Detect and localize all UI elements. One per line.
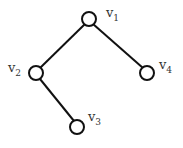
node-v2 [29,66,43,80]
label-v1: v1 [105,5,119,23]
edge-v1-v2 [40,24,85,68]
node-v4 [140,66,154,80]
node-v3 [70,120,84,134]
edge-v1-v4 [93,24,143,68]
label-v3: v3 [87,109,101,127]
edge-v2-v3 [40,79,74,121]
label-v2: v2 [7,60,21,78]
label-v4: v4 [158,57,172,75]
node-v1 [82,12,96,26]
tree-svg: v1 v2 v3 v4 [0,0,183,148]
tree-diagram: v1 v2 v3 v4 [0,0,183,148]
